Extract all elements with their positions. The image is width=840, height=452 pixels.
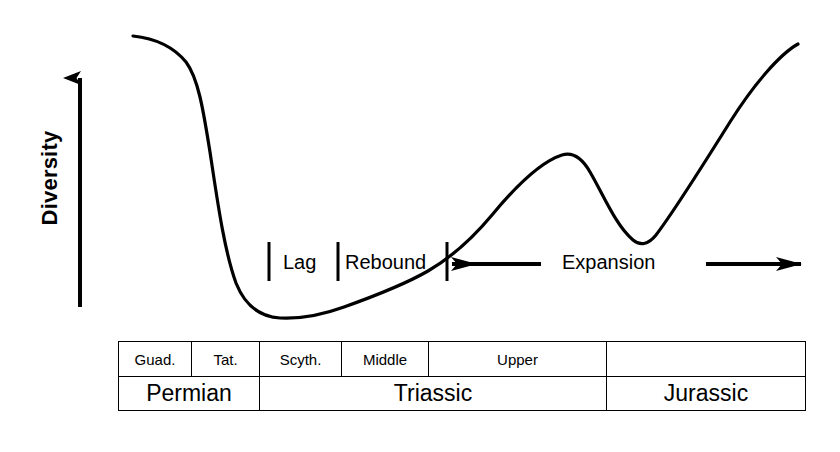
period-cell-triassic: Triassic [260, 377, 607, 411]
table-row-epochs: Guad. Tat. Scyth. Middle Upper [119, 342, 806, 377]
epoch-cell-middle: Middle [342, 342, 429, 377]
diversity-figure: Diversity [0, 0, 840, 452]
epoch-cell-guadalupian: Guad. [119, 342, 192, 377]
period-cell-permian: Permian [119, 377, 260, 411]
stratigraphic-table: Guad. Tat. Scyth. Middle Upper Permian T… [118, 341, 806, 411]
annotation-expansion: Expansion [562, 252, 655, 272]
annotation-rebound: Rebound [345, 252, 426, 272]
epoch-cell-scythian: Scyth. [260, 342, 342, 377]
diversity-curve [133, 36, 798, 318]
period-cell-jurassic: Jurassic [607, 377, 806, 411]
epoch-cell-upper: Upper [429, 342, 607, 377]
epoch-cell-tatarian: Tat. [192, 342, 260, 377]
table-row-periods: Permian Triassic Jurassic [119, 377, 806, 411]
epoch-cell-empty [607, 342, 806, 377]
annotation-lag: Lag [283, 252, 316, 272]
